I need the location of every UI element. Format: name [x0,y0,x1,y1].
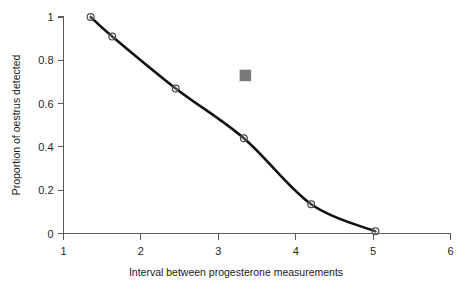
data-point-marker [240,135,247,142]
x-tick-label: 2 [138,245,144,257]
data-point-marker [372,228,379,235]
y-axis-title: Proportion of oestrus detected [10,55,22,196]
series-line [91,17,376,231]
y-tick-label: 0.4 [38,141,53,153]
y-tick-label: 0.8 [38,54,53,66]
y-tick-label: 0.6 [38,98,53,110]
axes-group [64,17,451,234]
x-axis-title: Interval between progesterone measuremen… [129,266,343,278]
data-point-marker [308,201,315,208]
data-point-marker [87,14,94,21]
x-tick-label: 6 [447,245,453,257]
data-series-group [87,14,379,235]
data-point-marker-square [240,70,252,82]
chart-plot-area: 123456 00.20.40.60.81 Interval between p… [0,0,473,291]
data-point-marker [109,33,116,40]
x-tick-label: 4 [293,245,299,257]
x-tick-label: 5 [370,245,376,257]
chart-container: 123456 00.20.40.60.81 Interval between p… [0,0,473,291]
y-tick-label: 0 [47,228,53,240]
data-point-marker [172,85,179,92]
x-tick-label: 3 [215,245,221,257]
y-tick-label: 0.2 [38,184,53,196]
x-tick-label: 1 [60,245,66,257]
y-tick-label: 1 [47,11,53,23]
x-axis-ticks: 123456 [60,234,453,257]
y-axis-ticks: 00.20.40.60.81 [38,11,63,240]
